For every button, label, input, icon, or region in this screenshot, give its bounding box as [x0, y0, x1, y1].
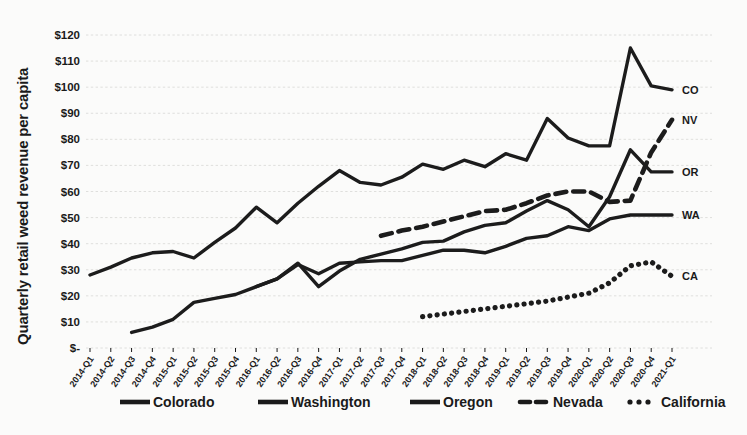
- y-axis-tick-label: $100: [54, 81, 80, 93]
- legend-item-california[interactable]: California: [627, 394, 725, 410]
- legend-item-oregon[interactable]: Oregon: [410, 394, 493, 410]
- series-end-label-nv: NV: [682, 114, 698, 126]
- series-line-nv: [381, 120, 672, 236]
- y-axis-tick-label: $20: [61, 290, 80, 302]
- legend-label: Colorado: [153, 394, 214, 410]
- legend-item-colorado[interactable]: Colorado: [120, 394, 214, 410]
- y-axis-tick-label: $-: [70, 342, 80, 354]
- y-axis-title-text: Quarterly retail weed revenue per capita: [14, 67, 31, 345]
- series-end-labels: COWAORNVCA: [682, 84, 700, 282]
- legend-label: California: [661, 394, 726, 410]
- y-axis-tick-label: $40: [61, 238, 80, 250]
- legend-label: Nevada: [553, 394, 603, 410]
- y-axis-tick-label: $80: [61, 133, 80, 145]
- y-axis-tick-label: $110: [55, 55, 80, 67]
- series-end-label-wa: WA: [682, 209, 700, 221]
- legend-item-nevada[interactable]: Nevada: [520, 394, 603, 410]
- gridlines: [86, 35, 712, 348]
- y-axis-ticks: $120$110$100$90$80$70$60$50$40$30$20$10$…: [54, 29, 80, 354]
- y-axis-tick-label: $30: [61, 264, 80, 276]
- y-axis-tick-label: $50: [61, 212, 80, 224]
- legend-swatch-dotted: [627, 399, 632, 404]
- chart-container: Quarterly retail weed revenue per capita…: [0, 0, 747, 435]
- legend-label: Washington: [291, 394, 371, 410]
- data-series: [90, 48, 672, 332]
- chart-legend: ColoradoWashingtonOregonNevadaCalifornia: [120, 394, 726, 410]
- y-axis-tick-label: $90: [61, 107, 80, 119]
- legend-item-washington[interactable]: Washington: [258, 394, 371, 410]
- y-axis-tick-label: $70: [61, 159, 80, 171]
- series-line-co: [90, 48, 672, 275]
- legend-label: Oregon: [443, 394, 493, 410]
- x-axis-ticks: 2014-Q12014-Q22014-Q32014-Q42015-Q12015-…: [67, 348, 677, 389]
- y-axis-tick-label: $10: [61, 316, 80, 328]
- y-axis-tick-label: $60: [61, 186, 80, 198]
- y-axis-title: Quarterly retail weed revenue per capita: [14, 67, 31, 345]
- series-end-label-or: OR: [682, 166, 699, 178]
- y-axis-tick-label: $120: [54, 29, 80, 41]
- legend-swatch-dotted: [645, 399, 650, 404]
- series-end-label-ca: CA: [682, 270, 698, 282]
- line-chart: Quarterly retail weed revenue per capita…: [0, 0, 747, 435]
- legend-swatch-dotted: [636, 399, 641, 404]
- series-end-label-co: CO: [682, 84, 699, 96]
